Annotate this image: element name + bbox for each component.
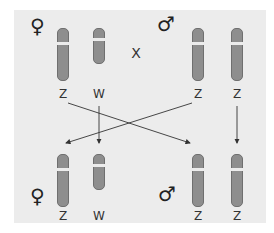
female-symbol-offspring: ♀ [30, 186, 45, 206]
offspring-male-z2-label: Z [227, 209, 247, 223]
offspring-male-z1-label: Z [188, 209, 208, 223]
offspring-female-w-label: W [89, 209, 109, 223]
offspring-female-w-chromosome [93, 154, 105, 190]
offspring-female-z-label: Z [53, 209, 73, 223]
offspring-male-z1-chromosome [192, 154, 204, 207]
offspring-male-z2-chromosome [231, 154, 243, 207]
offspring-female-z-chromosome [57, 154, 69, 207]
male-symbol-offspring: ♂ [158, 184, 176, 204]
